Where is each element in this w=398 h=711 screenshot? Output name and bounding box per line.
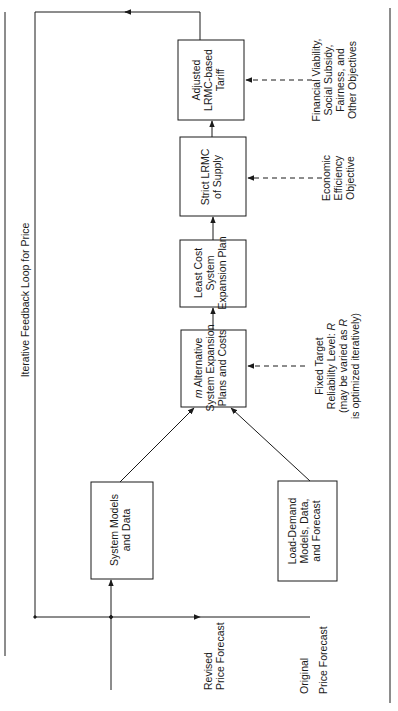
- original-forecast-line: [34, 580, 113, 690]
- dashed-side-inputs: [246, 80, 322, 366]
- svg-text:is optimized iteratively): is optimized iteratively): [349, 313, 361, 419]
- svg-text:m Alternative: m Alternative: [192, 337, 204, 398]
- loop-label: Iterative Feedback Loop for Price: [19, 223, 31, 378]
- svg-text:Least Cost: Least Cost: [192, 248, 204, 298]
- efficiency-label: Economic Efficiency Objective: [320, 155, 356, 201]
- svg-text:System Models: System Models: [108, 494, 120, 566]
- svg-text:Load-Demand: Load-Demand: [286, 498, 298, 565]
- svg-text:Efficiency: Efficiency: [332, 155, 344, 200]
- load-demand-label: Load-Demand Models, Data, and Forecast: [286, 498, 322, 565]
- svg-text:Tariff: Tariff: [214, 69, 226, 92]
- svg-text:Economic: Economic: [320, 155, 332, 201]
- svg-text:Fixed Target: Fixed Target: [313, 337, 325, 395]
- svg-text:Objective: Objective: [344, 156, 356, 200]
- alternatives-label: m Alternative System Expansion Plans and…: [192, 324, 228, 411]
- price-feedback-diagram: Iterative Feedback Loop for Price Revise…: [0, 0, 398, 711]
- svg-text:Social Subsidy,: Social Subsidy,: [322, 44, 334, 115]
- svg-text:Strict LRMC: Strict LRMC: [199, 148, 211, 205]
- svg-text:System: System: [204, 255, 216, 290]
- svg-text:and Data: and Data: [120, 509, 132, 552]
- original-forecast-label: Original Price Forecast: [298, 626, 329, 694]
- svg-text:Expansion Plan: Expansion Plan: [216, 236, 228, 309]
- svg-text:Models, Data,: Models, Data,: [298, 499, 310, 564]
- svg-text:Price Forecast: Price Forecast: [317, 626, 329, 694]
- system-models-label: System Models and Data: [108, 494, 132, 566]
- svg-text:Financial Viability,: Financial Viability,: [310, 38, 322, 121]
- financial-label: Financial Viability, Social Subsidy, Fai…: [310, 38, 358, 121]
- svg-text:Fairness, and: Fairness, and: [334, 48, 346, 112]
- svg-text:Revised: Revised: [202, 652, 214, 690]
- svg-text:LRMC-based: LRMC-based: [202, 49, 214, 111]
- svg-text:Reliability Level: R: Reliability Level: R: [325, 322, 337, 409]
- reliability-label: Fixed Target Reliability Level: R (may b…: [313, 313, 361, 419]
- revised-forecast-label: Revised Price Forecast: [202, 622, 226, 690]
- svg-text:Iterative Feedback Loop for Pr: Iterative Feedback Loop for Price: [19, 223, 31, 378]
- svg-text:(may be varied as R: (may be varied as R: [337, 319, 349, 413]
- svg-text:Original: Original: [298, 658, 310, 694]
- svg-text:Plans and Costs: Plans and Costs: [216, 330, 228, 406]
- strict-lrmc-label: Strict LRMC of Supply: [199, 148, 223, 205]
- svg-text:System Expansion: System Expansion: [204, 324, 216, 411]
- svg-text:of Supply: of Supply: [211, 154, 223, 199]
- svg-text:Price Forecast: Price Forecast: [214, 622, 226, 690]
- feedback-loop: [35, 12, 310, 617]
- svg-text:Adjusted: Adjusted: [190, 59, 202, 100]
- svg-text:and Forecast: and Forecast: [310, 500, 322, 561]
- least-cost-label: Least Cost System Expansion Plan: [192, 236, 228, 309]
- svg-text:Other Objectives: Other Objectives: [346, 41, 358, 119]
- adjusted-tariff-label: Adjusted LRMC-based Tariff: [190, 49, 226, 111]
